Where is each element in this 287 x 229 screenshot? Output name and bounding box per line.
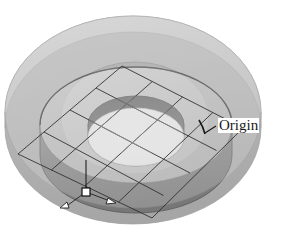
torus-diagram-canvas xyxy=(0,0,287,229)
shell-front-bore xyxy=(61,62,209,174)
origin-handle-square[interactable] xyxy=(82,188,90,196)
origin-label: Origin xyxy=(218,118,259,133)
figure-3d-torus-render: Origin xyxy=(0,0,287,229)
